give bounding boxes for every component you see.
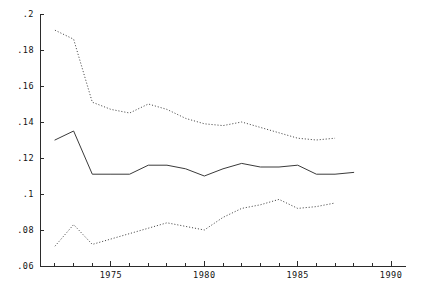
- y-tick-label: .18: [17, 45, 34, 55]
- series-upper-band: [55, 30, 335, 140]
- y-tick-label: .12: [17, 153, 34, 163]
- y-tick-label: .06: [17, 261, 34, 271]
- x-tick-label: 1990: [380, 270, 402, 280]
- axis-group: [40, 14, 406, 266]
- x-axis-ticks: [55, 261, 391, 266]
- y-tick-label: .16: [17, 81, 34, 91]
- series-lower-band: [55, 199, 335, 246]
- x-tick-label: 1980: [193, 270, 215, 280]
- data-series-group: [55, 30, 354, 246]
- x-tick-label: 1975: [100, 270, 122, 280]
- y-axis-ticks: [40, 14, 44, 266]
- chart-container: .06.08.1.12.14.16.18.2 1975198019851990: [0, 0, 423, 284]
- y-tick-label: .2: [23, 9, 34, 19]
- y-tick-label: .08: [17, 225, 34, 235]
- x-tick-label: 1985: [286, 270, 308, 280]
- x-axis-tick-labels: 1975198019851990: [100, 270, 403, 280]
- line-chart-plot: .06.08.1.12.14.16.18.2 1975198019851990: [0, 0, 423, 284]
- y-tick-label: .14: [17, 117, 34, 127]
- y-axis-tick-labels: .06.08.1.12.14.16.18.2: [17, 9, 34, 271]
- series-estimate: [55, 131, 354, 176]
- y-tick-label: .1: [23, 189, 34, 199]
